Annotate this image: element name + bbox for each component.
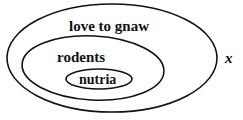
label-inner-set: nutria <box>79 72 116 87</box>
label-outer-set: love to gnaw <box>69 18 149 34</box>
set-middle-ellipse <box>20 32 165 103</box>
label-external-element: x <box>224 50 233 66</box>
euler-diagram: love to gnaw rodents nutria x <box>0 0 243 120</box>
label-middle-set: rodents <box>57 49 105 65</box>
